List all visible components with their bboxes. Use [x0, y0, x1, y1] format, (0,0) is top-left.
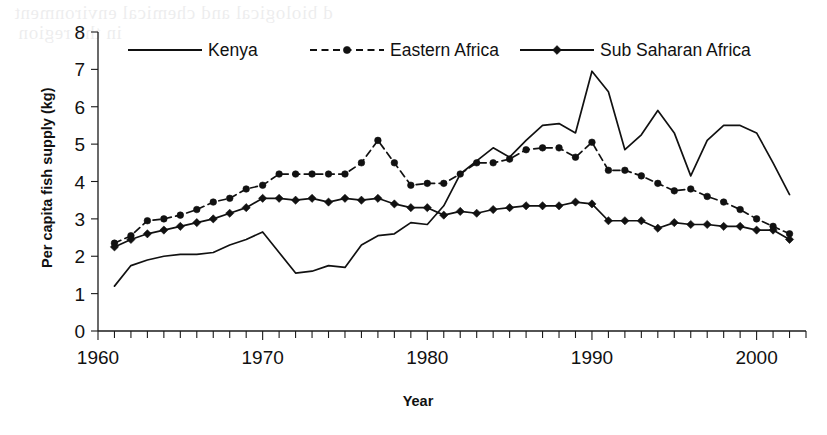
data-point — [375, 137, 382, 144]
data-point — [539, 145, 546, 152]
data-point — [291, 196, 299, 204]
data-point — [522, 202, 530, 210]
y-axis: 012345678 Per capita fish supply (kg) — [39, 22, 98, 342]
legend-label: Kenya — [208, 40, 258, 60]
legend-label: Sub Saharan Africa — [600, 40, 751, 60]
data-point — [423, 204, 431, 212]
y-tick-label: 8 — [74, 22, 85, 43]
data-point — [193, 206, 200, 213]
data-point — [637, 217, 645, 225]
legend-item-sub-saharan-africa[interactable]: Sub Saharan Africa — [520, 40, 751, 60]
data-point — [390, 200, 398, 208]
data-point — [703, 220, 711, 228]
data-point — [655, 180, 662, 187]
chart-figure: d biological and chemical environment in… — [0, 0, 827, 435]
data-point — [242, 204, 250, 212]
data-point — [720, 199, 727, 206]
data-point — [407, 204, 415, 212]
data-point — [210, 199, 217, 206]
data-point — [143, 230, 151, 238]
x-tick-label: 1960 — [77, 347, 119, 368]
data-point — [523, 146, 530, 153]
data-point — [473, 209, 481, 217]
series-layer — [110, 71, 793, 286]
y-tick-label: 2 — [74, 246, 85, 267]
legend-item-kenya[interactable]: Kenya — [128, 40, 258, 60]
y-axis-ticks — [91, 32, 98, 331]
data-point — [753, 226, 761, 234]
data-point — [259, 182, 266, 189]
data-point — [571, 198, 579, 206]
data-point — [654, 224, 662, 232]
y-tick-label: 1 — [74, 284, 85, 305]
data-point — [621, 217, 629, 225]
data-point — [556, 145, 563, 152]
legend-label: Eastern Africa — [390, 40, 499, 60]
y-axis-title: Per capita fish supply (kg) — [39, 87, 55, 268]
y-axis-tick-labels: 012345678 — [74, 22, 85, 342]
data-point — [440, 180, 447, 187]
x-tick-label: 1970 — [242, 347, 284, 368]
data-point — [720, 222, 728, 230]
y-tick-label: 5 — [74, 134, 85, 155]
data-point — [259, 194, 267, 202]
data-point — [308, 194, 316, 202]
y-tick-label: 7 — [74, 59, 85, 80]
data-point — [374, 194, 382, 202]
legend-item-eastern-africa[interactable]: Eastern Africa — [310, 40, 499, 60]
data-point — [671, 188, 678, 195]
data-point — [489, 205, 497, 213]
x-axis-tick-labels: 19601970198019902000 — [77, 347, 778, 368]
data-point — [309, 171, 316, 178]
data-point — [572, 154, 579, 161]
data-point — [358, 160, 365, 167]
data-point — [555, 202, 563, 210]
x-tick-label: 1980 — [406, 347, 448, 368]
data-point — [785, 235, 793, 243]
data-point — [177, 212, 184, 219]
series-eastern-africa — [111, 137, 793, 246]
y-tick-label: 6 — [74, 97, 85, 118]
data-point — [144, 217, 151, 224]
data-point — [275, 194, 283, 202]
data-point — [670, 219, 678, 227]
data-point — [292, 171, 299, 178]
legend-marker — [343, 46, 350, 53]
data-point — [209, 215, 217, 223]
data-point — [391, 160, 398, 167]
data-point — [589, 139, 596, 146]
data-point — [357, 196, 365, 204]
x-tick-label: 2000 — [735, 347, 777, 368]
data-point — [538, 202, 546, 210]
data-point — [506, 156, 513, 163]
data-point — [457, 171, 464, 178]
data-point — [753, 216, 760, 223]
data-point — [226, 195, 233, 202]
data-point — [704, 193, 711, 200]
data-point — [193, 219, 201, 227]
data-point — [226, 209, 234, 217]
series-path — [114, 140, 789, 243]
data-point — [176, 222, 184, 230]
x-axis: 19601970198019902000 Year — [77, 331, 806, 409]
y-tick-label: 4 — [74, 172, 85, 193]
data-point — [243, 186, 250, 193]
x-axis-title: Year — [403, 393, 434, 409]
data-point — [736, 222, 744, 230]
data-point — [605, 167, 612, 174]
legend-marker — [553, 46, 562, 55]
data-point — [408, 182, 415, 189]
line-chart-svg: 012345678 Per capita fish supply (kg) 19… — [0, 0, 827, 435]
data-point — [456, 207, 464, 215]
x-axis-ticks — [98, 331, 806, 340]
data-point — [324, 198, 332, 206]
data-point — [440, 211, 448, 219]
data-point — [325, 171, 332, 178]
y-tick-label: 0 — [74, 321, 85, 342]
chart-legend: KenyaEastern AfricaSub Saharan Africa — [128, 40, 751, 60]
data-point — [687, 186, 694, 193]
data-point — [506, 204, 514, 212]
data-point — [341, 194, 349, 202]
data-point — [622, 167, 629, 174]
data-point — [160, 226, 168, 234]
